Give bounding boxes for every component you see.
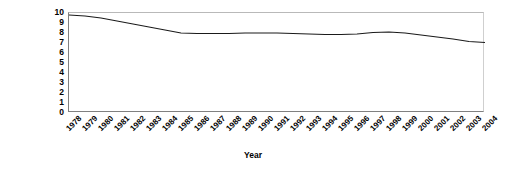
plot-area xyxy=(68,12,484,112)
x-axis-title: Year xyxy=(0,150,506,160)
data-line-svg xyxy=(69,13,485,113)
y-tick-label: 2 xyxy=(46,88,64,96)
series-line-litres-per-100km xyxy=(69,15,485,43)
y-tick-label: 3 xyxy=(46,78,64,86)
y-tick-label: 7 xyxy=(46,38,64,46)
y-tick-label: 6 xyxy=(46,48,64,56)
y-tick-label: 0 xyxy=(46,108,64,116)
y-tick-label: 9 xyxy=(46,18,64,26)
fuel-consumption-line-chart: Litres per 100 kilometres 109876543210 1… xyxy=(0,0,506,176)
y-tick-label: 10 xyxy=(46,8,64,16)
y-tick-label: 1 xyxy=(46,98,64,106)
y-tick-label: 5 xyxy=(46,58,64,66)
y-tick-label: 8 xyxy=(46,28,64,36)
y-tick-label: 4 xyxy=(46,68,64,76)
